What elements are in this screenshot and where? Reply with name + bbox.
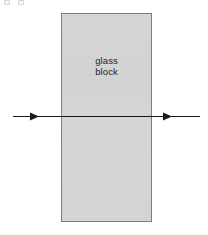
incident-ray-arrowhead-icon xyxy=(30,113,39,121)
glass-block-rectangle: glass block xyxy=(61,13,152,222)
emergent-ray-arrowhead-icon xyxy=(163,113,172,121)
glass-block-label-line-2: block xyxy=(62,67,151,78)
crop-artifact-mark-1 xyxy=(4,0,10,5)
glass-block-label: glass block xyxy=(62,56,151,77)
glass-block-ray-diagram: glass block xyxy=(0,0,208,235)
glass-block-label-line-1: glass xyxy=(62,56,151,67)
crop-artifact-mark-2 xyxy=(18,0,24,5)
